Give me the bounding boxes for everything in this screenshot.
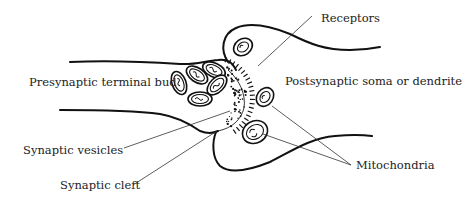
leader-mito-2	[263, 134, 351, 165]
receptor-mark	[242, 121, 246, 124]
mitochondrion	[253, 84, 278, 110]
receptor-mark	[249, 107, 254, 108]
receptor-mark	[249, 91, 254, 92]
receptor-mark	[239, 124, 243, 128]
receptor-mark	[235, 64, 238, 68]
vesicle-dot	[239, 94, 241, 96]
vesicle-dot	[229, 116, 230, 117]
receptor-mark	[238, 67, 242, 71]
label-receptors: Receptors	[321, 11, 380, 25]
vesicle-dot	[230, 125, 232, 127]
receptor-mark	[244, 118, 248, 121]
vesicle-dot	[244, 90, 246, 92]
vesicle-dot	[230, 112, 231, 113]
receptor-mark	[236, 127, 239, 131]
mitochondrion	[238, 116, 272, 148]
synapse-diagram: Receptors Presynaptic terminal bud Posts…	[0, 0, 465, 202]
vesicle-dot	[238, 89, 240, 91]
vesicle-dot	[230, 86, 232, 88]
label-cleft: Synaptic cleft	[60, 178, 141, 192]
receptor-mark	[241, 70, 245, 73]
vesicle-dot	[231, 73, 233, 75]
vesicle-dot	[228, 68, 229, 69]
vesicle-dot	[240, 99, 241, 100]
vesicle-dot	[231, 80, 233, 82]
vesicle-dot	[231, 70, 233, 72]
vesicle-dot	[238, 101, 240, 103]
postsynaptic-lower-membrane	[213, 132, 372, 170]
vesicle-dot	[234, 111, 236, 113]
label-vesicles: Synaptic vesicles	[23, 143, 123, 157]
vesicle-dot	[237, 118, 238, 119]
vesicle-dot	[234, 95, 236, 97]
vesicle-dot	[226, 118, 228, 120]
vesicle-dot	[226, 66, 228, 68]
vesicle-dot	[243, 106, 244, 107]
vesicle-dot	[228, 121, 229, 122]
mitochondrion	[230, 35, 256, 60]
vesicle-dot	[233, 92, 235, 94]
vesicle-dot	[227, 74, 229, 76]
vesicle-dot	[239, 109, 241, 111]
mitochondrion	[188, 92, 212, 106]
vesicle-dot	[238, 111, 240, 113]
vesicle-dot	[234, 105, 235, 106]
axon-lower-membrane	[60, 110, 218, 133]
receptor-mark	[246, 115, 250, 117]
leader-cleft	[133, 131, 217, 185]
vesicle-dot	[234, 89, 236, 91]
vesicle-dot	[238, 98, 239, 99]
vesicle-dot	[231, 117, 232, 118]
vesicle-dot	[245, 94, 247, 96]
vesicle-dot	[241, 88, 243, 90]
label-postsynaptic: Postsynaptic soma or dendrite	[285, 74, 462, 88]
receptor-mark	[233, 130, 236, 134]
vesicle-dot	[232, 88, 234, 90]
vesicle-dot	[237, 91, 239, 93]
receptor-mark	[244, 74, 248, 77]
vesicle-dot	[240, 112, 242, 114]
vesicle-dot	[235, 108, 237, 110]
vesicle-dot	[237, 97, 238, 98]
receptor-mark	[250, 103, 255, 104]
vesicle-dot	[240, 115, 242, 117]
label-presynaptic: Presynaptic terminal bud	[29, 75, 177, 89]
vesicle-dot	[237, 79, 239, 81]
vesicle-dot	[242, 98, 244, 100]
vesicle-dot	[227, 123, 228, 124]
vesicle-dot	[236, 77, 237, 78]
receptor-mark	[247, 82, 252, 84]
vesicle-dot	[234, 103, 235, 104]
vesicle-dot	[234, 102, 236, 104]
label-mitochondria: Mitochondria	[356, 158, 435, 172]
receptor-mark	[246, 78, 250, 80]
vesicle-dot	[226, 121, 227, 122]
receptor-mark	[248, 111, 253, 113]
vesicle-dot	[231, 119, 233, 121]
vesicle-dot	[233, 80, 235, 82]
vesicle-dot	[236, 105, 237, 106]
receptor-mark	[249, 86, 254, 87]
